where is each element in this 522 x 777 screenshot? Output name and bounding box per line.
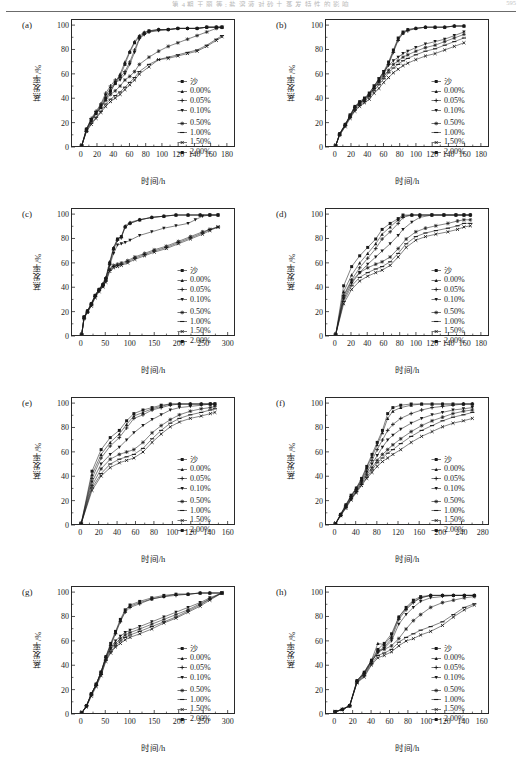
legend-marker-icon — [431, 295, 442, 304]
legend-item: 0.00% — [431, 276, 465, 286]
legend-item: 0.10% — [177, 295, 211, 305]
marker-glyph — [431, 705, 442, 714]
legend-label: 沙 — [444, 78, 452, 86]
chart-panel-d: (d)蒸发率/%02040608010002040608010012014016… — [264, 203, 514, 389]
legend-label: 沙 — [444, 456, 452, 464]
marker-glyph — [431, 337, 442, 346]
legend-item: 2.00% — [431, 714, 465, 724]
y-tick-label: 40 — [43, 661, 69, 670]
x-axis-label: 时间/h — [71, 552, 235, 564]
legend-label: 1.50% — [444, 516, 465, 524]
legend-label: 0.10% — [190, 107, 211, 115]
x-axis-label: 时间/h — [71, 741, 235, 753]
legend-marker-icon — [431, 497, 442, 506]
legend-item: 0.10% — [431, 673, 465, 683]
legend-item: 沙 — [431, 77, 465, 87]
legend-item: 0.50% — [177, 497, 211, 507]
legend-item: 0.05% — [177, 285, 211, 295]
legend-item: 0.00% — [431, 465, 465, 475]
legend-item: 1.00% — [431, 317, 465, 327]
legend-marker-icon — [177, 484, 188, 493]
legend-label: 0.10% — [190, 674, 211, 682]
legend-label: 0.50% — [190, 497, 211, 505]
marker-glyph — [431, 317, 442, 326]
legend-item: 0.10% — [177, 106, 211, 116]
legend-marker-icon — [177, 106, 188, 115]
marker-glyph — [431, 285, 442, 294]
marker-glyph — [177, 654, 188, 663]
legend-marker-icon — [177, 715, 188, 724]
chart-panel-f: (f)蒸发率/%02040608010004080120160200240280… — [264, 392, 514, 578]
legend-item: 1.50% — [431, 138, 465, 148]
legend-item: 1.00% — [431, 506, 465, 516]
legend-marker-icon — [177, 506, 188, 515]
legend-marker-icon — [431, 663, 442, 672]
y-axis-ticks: 020406080100 — [41, 586, 69, 714]
legend-item: 1.00% — [431, 695, 465, 705]
y-tick-label: 60 — [43, 69, 69, 78]
marker-glyph — [177, 77, 188, 86]
legend-label: 0.05% — [190, 475, 211, 483]
legend-label: 0.10% — [444, 107, 465, 115]
legend-marker-icon — [431, 96, 442, 105]
legend-item: 1.50% — [177, 705, 211, 715]
legend-item: 0.00% — [177, 654, 211, 664]
y-axis-ticks: 020406080100 — [295, 397, 323, 525]
chart-legend: 沙0.00%0.05%0.10%0.50%1.00%1.50%2.00% — [177, 266, 211, 346]
legend-label: 0.05% — [444, 664, 465, 672]
y-tick-label: 60 — [43, 636, 69, 645]
legend-marker-icon — [431, 695, 442, 704]
legend-item: 1.50% — [431, 705, 465, 715]
marker-glyph — [177, 285, 188, 294]
panel-label: (g) — [22, 587, 33, 597]
y-axis-ticks: 020406080100 — [295, 19, 323, 147]
marker-glyph — [431, 295, 442, 304]
page-number: 595 — [506, 0, 516, 6]
legend-label: 1.50% — [190, 516, 211, 524]
legend-label: 0.00% — [190, 87, 211, 95]
marker-glyph — [177, 119, 188, 128]
legend-marker-icon — [177, 138, 188, 147]
chart-legend: 沙0.00%0.05%0.10%0.50%1.00%1.50%2.00% — [177, 77, 211, 157]
legend-marker-icon — [177, 308, 188, 317]
panel-label: (e) — [22, 398, 32, 408]
legend-marker-icon — [431, 77, 442, 86]
legend-marker-icon — [431, 673, 442, 682]
legend-item: 0.50% — [431, 119, 465, 129]
legend-item: 1.00% — [431, 128, 465, 138]
legend-label: 1.50% — [444, 705, 465, 713]
legend-label: 1.00% — [444, 696, 465, 704]
legend-item: 2.00% — [177, 714, 211, 724]
marker-glyph — [431, 663, 442, 672]
y-axis-ticks: 020406080100 — [41, 19, 69, 147]
marker-glyph — [431, 128, 442, 137]
marker-glyph — [177, 317, 188, 326]
legend-item: 0.10% — [431, 106, 465, 116]
legend-label: 0.10% — [444, 296, 465, 304]
x-tick-label: 300 — [213, 339, 243, 348]
legend-marker-icon — [177, 516, 188, 525]
legend-item: 沙 — [431, 455, 465, 465]
chart-legend: 沙0.00%0.05%0.10%0.50%1.00%1.50%2.00% — [177, 644, 211, 724]
legend-item: 0.05% — [431, 285, 465, 295]
y-tick-label: 80 — [297, 423, 323, 432]
legend-label: 0.05% — [444, 286, 465, 294]
legend-label: 0.05% — [190, 664, 211, 672]
y-tick-label: 60 — [297, 69, 323, 78]
legend-label: 0.10% — [190, 485, 211, 493]
y-tick-label: 20 — [297, 307, 323, 316]
y-tick-label: 20 — [297, 685, 323, 694]
y-tick-label: 100 — [43, 588, 69, 597]
legend-item: 0.00% — [177, 276, 211, 286]
legend-item: 2.00% — [431, 336, 465, 346]
chart-panel-b: (b)蒸发率/%02040608010002040608010012014016… — [264, 14, 514, 200]
marker-glyph — [431, 715, 442, 724]
y-tick-label: 60 — [43, 447, 69, 456]
legend-label: 1.50% — [190, 705, 211, 713]
chart-legend: 沙0.00%0.05%0.10%0.50%1.00%1.50%2.00% — [431, 77, 465, 157]
legend-label: 0.50% — [444, 497, 465, 505]
x-tick-label: 180 — [466, 150, 496, 159]
x-tick-label: 180 — [466, 339, 496, 348]
running-header: 第 4 期 王 丽 等 : 盐 溶 液 对 砂 土 蒸 发 特 性 的 影 响 … — [0, 0, 522, 13]
legend-item: 0.50% — [177, 686, 211, 696]
